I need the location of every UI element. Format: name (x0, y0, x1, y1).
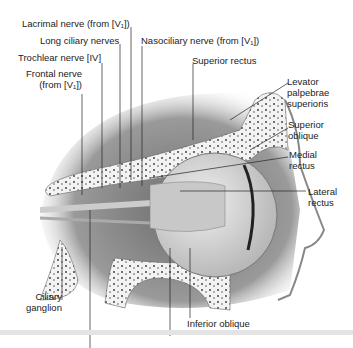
label-nasociliary-nerve: Nasociliary nerve (from [V₁]) (141, 35, 259, 46)
label-superior-rectus: Superior rectus (192, 55, 256, 66)
lateral-rectus-muscle (150, 182, 225, 232)
label-trochlear-nerve: Trochlear nerve [IV] (18, 52, 101, 63)
label-long-ciliary-nerves: Long ciliary nerves (40, 35, 119, 46)
label-superior-oblique: Superior oblique (288, 119, 324, 141)
label-frontal-nerve: Frontal nerve (from [V₁]) (26, 68, 82, 90)
label-levator-palpebrae-superioris: Levator palpebrae superioris (287, 76, 329, 109)
label-medial-rectus: Medial rectus (289, 149, 317, 171)
label-ciliary-ganglion: Ciliary ganglion (26, 291, 62, 313)
crop-band (0, 330, 353, 335)
label-inferior-oblique: Inferior oblique (187, 318, 250, 329)
label-lacrimal-nerve: Lacrimal nerve (from [V₁]) (22, 18, 130, 29)
label-lateral-rectus: Lateral rectus (308, 186, 337, 208)
